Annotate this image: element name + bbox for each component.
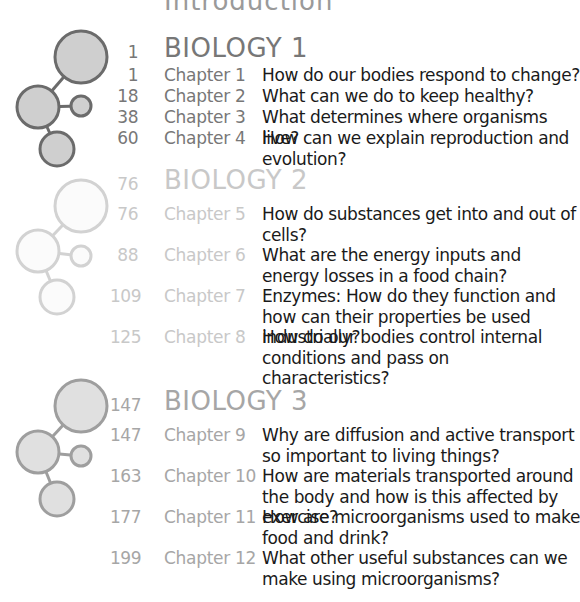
chapter-page-number: 88 — [110, 245, 138, 265]
section-page-number: 1 — [110, 42, 138, 62]
chapter-page-number: 125 — [110, 327, 138, 347]
section-title[interactable]: BIOLOGY 3 — [164, 386, 308, 416]
molecule-icon-biology-2 — [0, 175, 120, 335]
chapter-label: Chapter 11 — [164, 507, 256, 527]
chapter-page-number: 76 — [110, 204, 138, 224]
introduction-heading: Introduction — [164, 0, 333, 16]
chapter-page-number: 199 — [110, 548, 138, 568]
section-heading: 1 BIOLOGY 1 — [0, 33, 580, 65]
section-heading: 147 BIOLOGY 3 — [0, 386, 580, 418]
chapter-label: Chapter 4 — [164, 128, 246, 148]
chapter-description: Why are diffusion and active transport s… — [262, 425, 580, 466]
chapter-description: What are the energy inputs and energy lo… — [262, 245, 580, 286]
chapter-label: Chapter 1 — [164, 65, 246, 85]
chapter-description: What can we do to keep healthy? — [262, 86, 580, 107]
chapter-page-number: 1 — [110, 65, 138, 85]
introduction-heading-text: Introduction — [164, 0, 333, 16]
chapter-page-number: 109 — [110, 286, 138, 306]
chapter-description: How do our bodies respond to change? — [262, 65, 580, 86]
chapter-page-number: 177 — [110, 507, 138, 527]
chapter-label: Chapter 6 — [164, 245, 246, 265]
chapter-page-number: 163 — [110, 466, 138, 486]
section-title[interactable]: BIOLOGY 2 — [164, 165, 308, 195]
chapter-label: Chapter 9 — [164, 425, 246, 445]
chapter-description: What other useful substances can we make… — [262, 548, 580, 589]
section-heading: 76 BIOLOGY 2 — [0, 165, 580, 197]
chapter-label: Chapter 8 — [164, 327, 246, 347]
section-page-number: 147 — [110, 395, 138, 415]
chapter-label: Chapter 10 — [164, 466, 256, 486]
section-title[interactable]: BIOLOGY 1 — [164, 33, 308, 63]
chapter-page-number: 18 — [110, 86, 138, 106]
chapter-page-number: 38 — [110, 107, 138, 127]
chapter-label: Chapter 3 — [164, 107, 246, 127]
chapter-description: How do substances get into and out of ce… — [262, 204, 580, 245]
chapter-label: Chapter 5 — [164, 204, 246, 224]
chapter-label: Chapter 7 — [164, 286, 246, 306]
chapter-description: How do our bodies control internal condi… — [262, 327, 580, 389]
chapter-page-number: 147 — [110, 425, 138, 445]
chapter-description: How are microorganisms used to make food… — [262, 507, 580, 548]
chapter-page-number: 60 — [110, 128, 138, 148]
chapter-description: How can we explain reproduction and evol… — [262, 128, 580, 169]
section-page-number: 76 — [110, 174, 138, 194]
chapter-label: Chapter 2 — [164, 86, 246, 106]
chapter-label: Chapter 12 — [164, 548, 256, 568]
